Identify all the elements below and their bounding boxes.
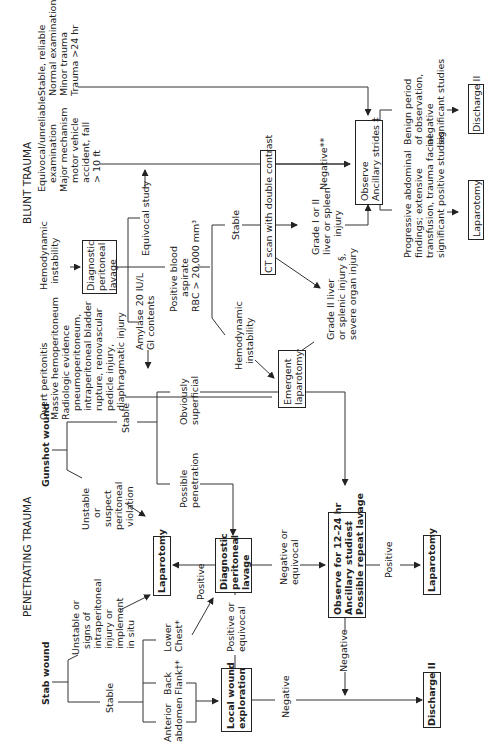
local-wound-exploration-label: Local wound exploration: [225, 662, 247, 729]
anterior-abdomen-label: Anterior abdomen: [162, 697, 184, 742]
overt-peritonitis-criteria: Overt peritonitis Massive hemoperitoneum…: [38, 297, 126, 420]
penetrating-dpl-label: Diagnostic peritoneal lavage: [218, 533, 251, 590]
blunt-dpl-label: Diagnostic peritoneal lavage: [85, 241, 118, 291]
blunt-observe-box: Observe Ancillary strides ‡: [355, 120, 383, 205]
positive-2-label: Positive: [383, 541, 394, 578]
blunt-laparotomy-box: Laparotomy: [468, 180, 484, 240]
penetrating-discharge-box: Discharge II: [423, 672, 441, 728]
blunt-discharge-label: Discharge II: [471, 76, 482, 132]
emergent-laparotomy-box: Emergent laparotomy: [278, 350, 306, 408]
positive-blood-aspirate-label: Positive blood aspirate RBC > 20,000 mm³: [168, 220, 201, 312]
penetrating-laparotomy-label: Laparotomy: [156, 529, 167, 593]
hemodynamic-instability-2-label: Hemodynamic instability: [233, 301, 255, 370]
obviously-superficial-label: Obviously superficial: [178, 376, 200, 425]
ct-scan-box: CT scan with double contrast: [260, 150, 276, 275]
stab-wound-label: Stab wound: [40, 641, 51, 705]
gsw-unstable-label: Unstable or suspect peritoneal violation: [80, 482, 135, 530]
amylase-label: Amylase 20 IU/L GI contents: [134, 273, 156, 350]
back-flank-label: Back Flank†*: [162, 660, 184, 695]
stab-unstable-label: Unstable or signs of intraperitoneal inj…: [70, 579, 136, 655]
grade-1-2-injury-label: Grade I or II liver or spleen injury: [310, 187, 343, 255]
lower-chest-label: Lower Chest*: [162, 620, 184, 652]
emergent-laparotomy-label: Emergent laparotomy: [282, 351, 304, 405]
penetrating-laparotomy-box: Laparotomy: [153, 536, 171, 596]
negative-2-label: Negative: [280, 675, 291, 718]
penetrating-dpl-box: Diagnostic peritoneal lavage: [215, 538, 252, 593]
hemodynamic-instability-label: Hemodynamic instability: [38, 221, 60, 290]
progressive-findings-label: Progressive abdominal findings; extensiv…: [402, 131, 446, 258]
ct-scan-label: CT scan with double contrast: [263, 135, 274, 273]
negative-label: Negative: [338, 629, 349, 672]
gsw-stable-label: Stable: [120, 403, 131, 433]
positive-label: Positive: [195, 563, 206, 600]
heading-blunt-trauma: BLUNT TRAUMA: [22, 142, 33, 224]
blunt-discharge-box: Discharge II: [468, 84, 484, 134]
penetrating-laparotomy-2-box: Laparotomy: [423, 535, 441, 595]
penetrating-observe-box: Observe for 12–24 hr Ancillary studies‡ …: [328, 512, 366, 618]
blunt-stable-label: Stable: [230, 210, 241, 240]
equivocal-study-label: Equivocal study: [140, 181, 151, 256]
equivocal-exam-criteria: Equivocal/unreliable examination Major m…: [36, 96, 102, 192]
heading-penetrating-trauma: PENETRATING TRAUMA: [22, 497, 33, 617]
stable-reliable-criteria: Stable, reliable Normal examination Mino…: [36, 0, 80, 96]
gunshot-wound-label: Gunshot wound: [40, 403, 51, 487]
negative-double-star-label: Negative**: [318, 138, 329, 190]
stab-stable-label: Stable: [104, 683, 115, 713]
penetrating-laparotomy-2-label: Laparotomy: [426, 528, 437, 592]
penetrating-discharge-label: Discharge II: [426, 662, 437, 726]
blunt-dpl-box: Diagnostic peritoneal lavage: [82, 240, 117, 294]
local-wound-exploration-box: Local wound exploration: [221, 668, 252, 732]
blunt-observe-label: Observe Ancillary strides ‡: [359, 117, 381, 201]
penetrating-observe-label: Observe for 12–24 hr Ancillary studies‡ …: [332, 493, 365, 615]
grade-2-severe-injury-label: Grade II liver or splenic injury §, seve…: [325, 248, 358, 340]
possible-penetration-label: Possible penetration: [178, 453, 200, 508]
positive-or-equivocal-label: Positive or equivocal: [225, 603, 247, 652]
negative-or-equivocal-label: Negative or equivocal: [278, 530, 300, 585]
blunt-laparotomy-label: Laparotomy: [471, 180, 482, 237]
